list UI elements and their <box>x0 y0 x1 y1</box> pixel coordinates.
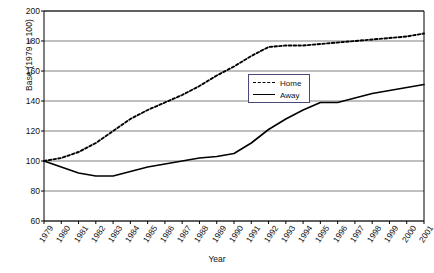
x-axis-title: Year <box>0 254 434 264</box>
series-line-home <box>44 34 424 162</box>
series-line-away <box>44 85 424 177</box>
plot-area <box>0 0 434 273</box>
legend-item-home: Home <box>252 77 306 89</box>
legend-label-home: Home <box>276 79 301 88</box>
legend-swatch-solid-icon <box>252 91 276 99</box>
chart-legend: Home Away <box>248 74 310 103</box>
legend-swatch-dashed-icon <box>252 79 276 87</box>
legend-label-away: Away <box>276 91 299 100</box>
legend-item-away: Away <box>252 89 306 101</box>
chart-container: Base (1979 = 100) 6080100120140160180200… <box>0 0 434 273</box>
